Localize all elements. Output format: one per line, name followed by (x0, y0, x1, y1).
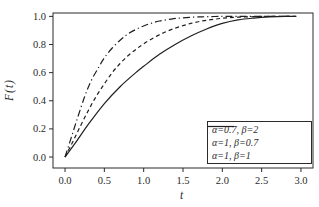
x-tick-label: 2.5 (255, 175, 268, 186)
x-tick-label: 0.0 (58, 175, 71, 186)
legend-line-solid (208, 122, 234, 131)
y-tick-label: 0.4 (33, 95, 47, 106)
figure: 0.00.51.01.52.02.53.00.00.20.40.60.81.0 … (0, 0, 319, 207)
x-axis-label: t (180, 189, 184, 201)
y-tick-label: 0.8 (33, 39, 46, 50)
y-tick-label: 0.2 (33, 123, 46, 134)
legend-entry-1: α=1, β=0.7 (212, 136, 307, 149)
y-axis-label: F(t) (3, 79, 16, 102)
plot-canvas: 0.00.51.01.52.02.53.00.00.20.40.60.81.0 … (0, 0, 319, 207)
x-tick-label: 3.0 (294, 175, 307, 186)
y-tick-label: 1.0 (33, 11, 46, 22)
x-tick-label: 2.0 (216, 175, 229, 186)
x-tick-label: 1.0 (137, 175, 150, 186)
legend-entry-label: α=1, β=1 (212, 150, 251, 161)
legend: α=0.7, β=2α=1, β=0.7α=1, β=1 (207, 121, 312, 164)
y-tick-label: 0.6 (33, 67, 46, 78)
x-tick-label: 0.5 (98, 175, 111, 186)
x-tick-label: 1.5 (176, 175, 189, 186)
legend-entry-label: α=1, β=0.7 (212, 137, 258, 148)
y-tick-label: 0.0 (33, 152, 46, 163)
legend-entry-2: α=1, β=1 (212, 149, 307, 162)
